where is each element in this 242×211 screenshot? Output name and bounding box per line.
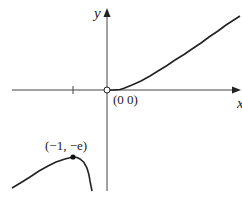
origin-open-circle <box>104 87 110 93</box>
origin-label: (0 0) <box>113 92 138 107</box>
x-axis-label: x <box>236 95 242 111</box>
x-axis-arrow-icon <box>232 87 241 94</box>
curve-left-branch <box>12 157 92 191</box>
curve-right-branch <box>110 16 240 90</box>
max-point-dot <box>70 154 75 159</box>
function-graph: y x (0 0) (−1, −e) <box>0 0 242 211</box>
max-point-label: (−1, −e) <box>45 138 87 153</box>
y-axis-label: y <box>92 5 101 21</box>
y-axis-arrow-icon <box>104 8 111 17</box>
